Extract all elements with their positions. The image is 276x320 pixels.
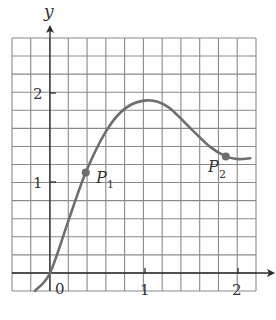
y-tick-label-2: 2	[33, 85, 43, 103]
graph-figure: y 0 1 2 1 2 P 1 P 2	[0, 0, 276, 320]
x-tick-label-2: 2	[232, 281, 242, 299]
p1-label-main: P	[95, 168, 107, 187]
point-p2-marker	[222, 152, 230, 160]
point-p1-label: P 1	[95, 168, 114, 191]
y-axis-label: y	[43, 1, 54, 21]
x-tick-label-1: 1	[140, 281, 150, 299]
p1-label-subscript: 1	[107, 178, 114, 191]
grid	[12, 38, 256, 291]
y-tick-label-1: 1	[33, 174, 43, 192]
p2-label-main: P	[207, 157, 219, 176]
origin-label: 0	[55, 280, 65, 298]
point-p2-label: P 2	[207, 157, 226, 181]
p2-label-subscript: 2	[219, 168, 226, 181]
point-p1-marker	[82, 168, 90, 176]
